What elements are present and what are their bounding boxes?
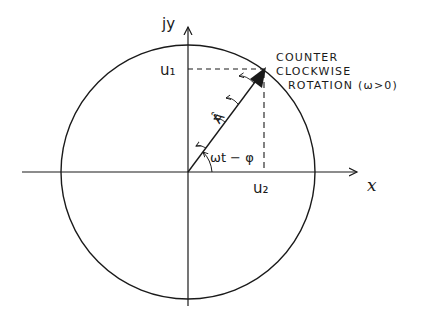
rotation-arrows-icon [196,76,254,148]
annotation-line-2: CLOCKWISE [276,65,351,78]
u2-label: u₂ [253,179,269,197]
angle-label: ωt − φ [210,150,254,165]
annotation-line-1: COUNTER [276,51,338,64]
u1-label: u₁ [160,61,176,79]
y-axis-label: jy [161,15,175,33]
phasor-diagram: jy x u₁ u₂ Â ωt − φ COUNTER CLOCKWISE RO… [0,0,436,320]
x-axis-label: x [367,175,377,195]
annotation-line-3: ROTATION (ω>0) [288,79,398,92]
